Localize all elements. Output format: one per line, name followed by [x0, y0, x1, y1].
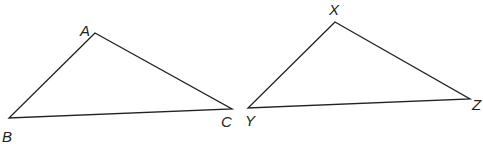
triangle-abc: [9, 33, 232, 118]
vertex-label-c: C: [221, 113, 232, 130]
vertex-label-a: A: [79, 22, 90, 39]
vertex-label-z: Z: [471, 96, 482, 113]
vertex-label-y: Y: [245, 112, 256, 129]
vertex-label-b: B: [2, 128, 12, 144]
triangle-xyz: [248, 22, 470, 108]
vertex-label-x: X: [328, 1, 340, 18]
diagram-canvas: A B C X Y Z: [0, 0, 483, 144]
